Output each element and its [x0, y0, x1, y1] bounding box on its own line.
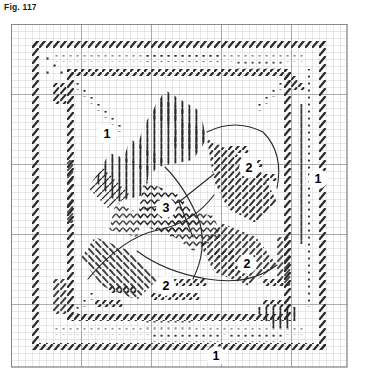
- figure-caption: Fig. 117: [4, 2, 37, 13]
- figure-container: Fig. 117: [0, 0, 370, 389]
- stitch-chart: 1 1 1 2 2 2 3: [11, 24, 353, 372]
- stitch-chart-canvas: [11, 24, 353, 372]
